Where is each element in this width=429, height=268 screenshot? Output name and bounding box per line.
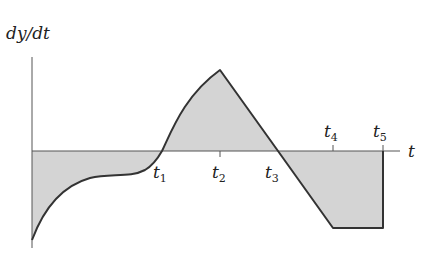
y-axis-label: dy/dt <box>6 23 50 43</box>
shaded-region-positive <box>162 70 278 151</box>
marker-t1: t1 <box>153 162 167 185</box>
dydt-graph: dy/dt t t1 t2 t3 t4 t5 <box>0 0 429 268</box>
x-axis-label: t <box>408 141 415 161</box>
marker-t4: t4 <box>324 121 338 144</box>
shaded-region-negative-right <box>278 151 383 228</box>
marker-t2: t2 <box>212 162 226 185</box>
marker-t3: t3 <box>265 162 279 185</box>
shaded-region-negative-left <box>32 151 162 240</box>
marker-t5: t5 <box>373 121 387 144</box>
